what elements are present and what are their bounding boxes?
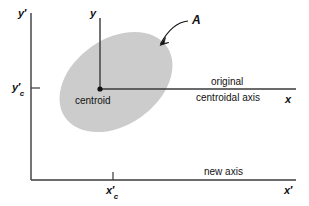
x-prime-axis-label: x′ xyxy=(284,185,293,196)
centroid-point xyxy=(97,86,102,91)
centroid-diagram: y′ y′c y x x′ x′c A centroid original ce… xyxy=(0,0,309,206)
centroidal-axis-label: centroidal axis xyxy=(196,93,260,103)
centroid-label: centroid xyxy=(75,96,111,106)
y-prime-c-subscript: c xyxy=(20,89,24,98)
x-prime-mark: ′ xyxy=(290,184,293,196)
diagram-canvas xyxy=(0,0,309,206)
original-label: original xyxy=(211,77,243,87)
new-axis-label: new axis xyxy=(204,167,243,177)
area-leader-arrow xyxy=(160,21,188,46)
area-label: A xyxy=(192,14,201,26)
y-axis-label: y xyxy=(90,8,96,19)
y-prime-c-label: y′c xyxy=(12,82,25,96)
y-prime-mark: ′ xyxy=(24,7,27,19)
x-prime-c-subscript: c xyxy=(114,192,118,201)
x-axis-label: x xyxy=(285,94,291,105)
y-prime-axis-label: y′ xyxy=(18,8,27,19)
x-prime-c-label: x′c xyxy=(106,185,119,199)
